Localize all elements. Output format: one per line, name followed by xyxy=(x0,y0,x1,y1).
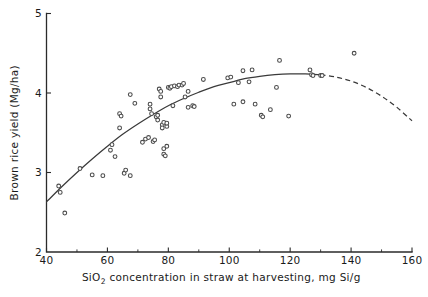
data-point xyxy=(192,105,196,109)
x-tick-label: 80 xyxy=(161,254,175,266)
x-axis-title: SiO2 concentration in straw at harvestin… xyxy=(82,271,361,286)
data-point xyxy=(186,90,190,94)
data-point xyxy=(352,51,356,55)
y-tick-label: 4 xyxy=(35,87,42,99)
axis-spines xyxy=(47,14,413,253)
data-points xyxy=(57,51,356,215)
data-point xyxy=(241,100,245,104)
fitted-curve xyxy=(47,74,413,202)
data-point xyxy=(308,68,312,72)
data-point xyxy=(57,184,61,188)
data-point xyxy=(182,82,186,86)
data-point xyxy=(128,93,132,97)
y-tick-label: 3 xyxy=(35,166,42,178)
data-point xyxy=(124,168,128,172)
data-point xyxy=(153,138,157,142)
data-point xyxy=(241,69,245,73)
fit-curve-extrapolated xyxy=(321,75,412,121)
data-point xyxy=(119,114,123,118)
data-point xyxy=(110,143,114,147)
x-tick-label: 160 xyxy=(402,254,423,266)
data-point xyxy=(156,118,160,122)
data-point xyxy=(247,80,251,84)
chart-figure: 4060801001201401602345 SiO2 concentratio… xyxy=(0,0,428,297)
data-point xyxy=(147,136,151,140)
axis-tick-labels: 4060801001201401602345 xyxy=(35,7,422,265)
y-tick-label: 5 xyxy=(35,7,42,19)
data-point xyxy=(278,59,282,63)
data-point xyxy=(165,144,169,148)
axes xyxy=(47,14,413,253)
data-point xyxy=(118,126,122,130)
data-point xyxy=(320,74,324,78)
data-point xyxy=(58,190,62,194)
data-point xyxy=(101,174,105,178)
data-point xyxy=(311,74,315,78)
data-point xyxy=(109,148,113,152)
data-point xyxy=(275,86,279,90)
data-point xyxy=(236,81,240,85)
data-point xyxy=(201,78,205,82)
data-point xyxy=(183,95,187,99)
data-point xyxy=(229,75,233,79)
data-point xyxy=(165,121,169,125)
data-point xyxy=(160,126,164,130)
data-point xyxy=(128,174,132,178)
x-tick-label: 140 xyxy=(341,254,362,266)
data-point xyxy=(232,102,236,106)
axis-ticks xyxy=(47,14,413,253)
data-point xyxy=(133,101,137,105)
data-point xyxy=(148,107,152,111)
data-point xyxy=(159,95,163,99)
scatter-plot: 4060801001201401602345 SiO2 concentratio… xyxy=(0,0,428,297)
data-point xyxy=(186,105,190,109)
data-point xyxy=(113,155,117,159)
data-point xyxy=(150,112,154,116)
data-point xyxy=(253,102,257,106)
data-point xyxy=(141,140,145,144)
data-point xyxy=(90,173,94,177)
data-point xyxy=(261,115,265,119)
data-point xyxy=(287,114,291,118)
data-point xyxy=(171,104,175,108)
data-point xyxy=(163,154,167,158)
data-point xyxy=(63,211,67,215)
data-point xyxy=(78,167,82,171)
y-tick-label: 2 xyxy=(35,246,42,258)
data-point xyxy=(148,102,152,106)
data-point xyxy=(268,108,272,112)
data-point xyxy=(156,113,160,117)
x-tick-label: 100 xyxy=(219,254,240,266)
data-point xyxy=(159,90,163,94)
data-point xyxy=(250,68,254,72)
x-tick-label: 60 xyxy=(101,254,115,266)
x-tick-label: 120 xyxy=(280,254,301,266)
y-axis-title: Brown rice yield (Mg/ha) xyxy=(8,65,20,200)
fit-curve-solid xyxy=(47,74,321,202)
